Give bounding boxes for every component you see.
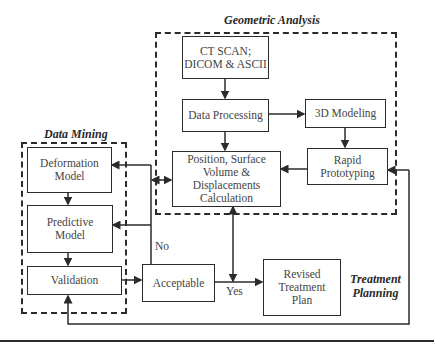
treatment-title-line2: Planning [350,286,401,300]
prototyping-line2: Prototyping [320,167,374,180]
rapid-prototyping-node: Rapid Prototyping [307,148,388,185]
validation-node: Validation [27,266,122,295]
revised-line3: Plan [292,294,312,307]
data-mining-title: Data Mining [44,127,108,142]
ct-line2: DICOM & ASCII [184,58,266,71]
predictive-line2: Model [55,229,85,242]
position-line3: Displacements [193,179,261,192]
deformation-line1: Deformation [40,157,99,170]
edge-label-no: No [155,240,169,252]
acceptable-label: Acceptable [153,277,205,290]
flowchart-canvas: Geometric Analysis Data Mining Treatment… [0,0,435,351]
revised-line2: Treatment [279,281,326,294]
geometric-analysis-title: Geometric Analysis [224,13,320,28]
position-line2: Volume & [203,166,250,179]
predictive-line1: Predictive [47,216,94,229]
validation-label: Validation [51,274,98,287]
revised-line1: Revised [283,268,320,281]
ct-line1: CT SCAN; [200,45,251,58]
treatment-planning-title: Treatment Planning [350,272,401,300]
3d-modeling-node: 3D Modeling [305,99,386,128]
data-processing-node: Data Processing [182,99,269,132]
position-line1: Position, Surface [187,153,266,166]
deformation-model-node: Deformation Model [27,147,112,193]
modeling-label: 3D Modeling [315,107,377,120]
position-calculation-node: Position, Surface Volume & Displacements… [172,151,281,207]
predictive-model-node: Predictive Model [27,205,113,253]
edge-label-yes: Yes [226,285,243,297]
prototyping-line1: Rapid [334,154,361,167]
processing-label: Data Processing [188,109,262,122]
ct-scan-node: CT SCAN; DICOM & ASCII [182,36,269,79]
revised-treatment-plan-node: Revised Treatment Plan [263,259,341,316]
treatment-title-line1: Treatment [350,272,401,286]
position-line4: Calculation [200,192,253,205]
deformation-line2: Model [54,170,84,183]
acceptable-node: Acceptable [142,264,215,302]
